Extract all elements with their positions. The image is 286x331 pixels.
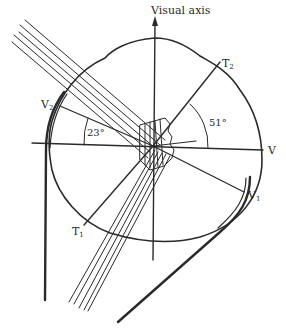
v2-label-sub: 2 <box>49 104 53 112</box>
t2-line <box>153 62 220 146</box>
v1-label-sub: 1 <box>256 195 260 203</box>
arrow-head-icon <box>152 16 158 26</box>
v1-line <box>153 146 244 192</box>
eye-diagram <box>0 0 286 331</box>
v2-line <box>60 106 153 146</box>
beam-lines-lower <box>69 150 170 311</box>
angle-23-label: 23° <box>87 128 105 138</box>
t1-line <box>84 146 153 225</box>
v2-label-main: V <box>41 98 49 111</box>
visual-axis-label: Visual axis <box>151 5 211 16</box>
t1-label-sub: 1 <box>79 231 83 239</box>
t2-label: T2 <box>222 58 234 71</box>
v1-label-main: V <box>248 189 256 202</box>
v-label: V <box>268 145 276 156</box>
v2-label: V2 <box>41 99 53 112</box>
t2-label-sub: 2 <box>229 63 233 71</box>
angle-51-label: 51° <box>209 118 227 128</box>
v1-label: V1 <box>248 190 260 203</box>
short-ray <box>153 141 196 146</box>
left-frame-curve <box>45 92 64 300</box>
t1-label: T1 <box>72 226 84 239</box>
